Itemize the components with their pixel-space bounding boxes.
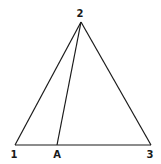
point-label-a: A xyxy=(53,149,61,160)
side-2-3 xyxy=(81,22,151,145)
vertex-label-3: 3 xyxy=(147,149,154,160)
side-1-2 xyxy=(15,22,81,145)
cevian-2-A xyxy=(57,22,81,145)
diagram-svg: 1 2 3 A xyxy=(0,0,161,164)
triangle-diagram: 1 2 3 A xyxy=(0,0,161,164)
vertex-label-1: 1 xyxy=(11,149,18,160)
vertex-label-2: 2 xyxy=(77,8,84,19)
